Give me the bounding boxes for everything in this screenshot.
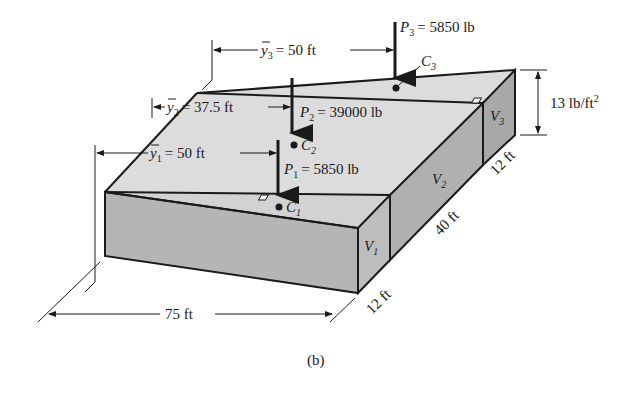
y3-label: y3= 50 ft bbox=[259, 42, 317, 61]
width1-label: 12 ft bbox=[363, 285, 395, 317]
length-label: 75 ft bbox=[165, 306, 194, 322]
c3-label: C3 bbox=[421, 53, 436, 72]
figure-caption: (b) bbox=[307, 352, 325, 369]
distributed-load-diagram: P3= 5850 lb C3 P2= 39000 lb C2 P1= 5850 … bbox=[0, 0, 642, 395]
p3-label: P3= 5850 lb bbox=[399, 19, 475, 38]
height-label: 13 lb/ft2 bbox=[550, 93, 599, 111]
svg-text:y3= 50 ft: y3= 50 ft bbox=[259, 42, 317, 61]
